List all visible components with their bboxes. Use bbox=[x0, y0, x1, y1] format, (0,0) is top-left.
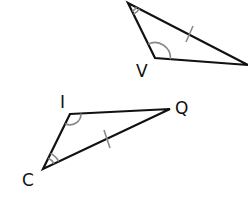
label-c: C bbox=[22, 170, 34, 190]
bottom-triangle bbox=[43, 109, 170, 169]
top-triangle-outline bbox=[128, 3, 248, 65]
angle-arc-top-inner bbox=[132, 7, 136, 11]
diagram-canvas: V I Q C bbox=[0, 0, 248, 212]
label-q: Q bbox=[175, 98, 188, 118]
label-i: I bbox=[60, 92, 65, 112]
angle-arc-c-outer bbox=[48, 158, 54, 163]
top-triangle bbox=[128, 3, 248, 65]
label-v: V bbox=[136, 61, 148, 81]
